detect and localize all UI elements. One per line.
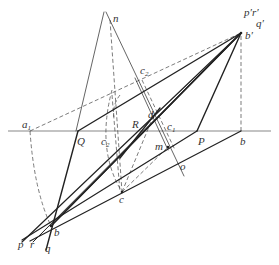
geometry-diagram: np′r′q′b′c2a1Qc2Rdc1Pbmocbprq	[0, 0, 279, 265]
label-o: o	[180, 160, 186, 172]
label-R: R	[131, 118, 139, 130]
label-d: d	[148, 108, 154, 120]
construction-arcs	[30, 90, 122, 226]
label-c2_low: c2	[101, 135, 110, 149]
line-R-d-thick	[120, 108, 160, 158]
label-c1: c1	[167, 120, 175, 134]
label-b_base: b	[240, 135, 246, 147]
label-m: m	[155, 140, 163, 152]
label-b_prime: b′	[245, 29, 254, 41]
label-c2_top: c2	[140, 64, 149, 78]
line-p-through-b	[22, 33, 241, 242]
label-n: n	[113, 12, 119, 24]
dot-b-prime	[240, 32, 243, 35]
label-P: P	[197, 135, 205, 147]
dash-a1-bprime	[30, 33, 241, 131]
diagram-svg: np′r′q′b′c2a1Qc2Rdc1Pbmocbprq	[0, 0, 279, 265]
label-a1: a1	[22, 118, 31, 132]
construction-dashed-lines	[30, 20, 241, 192]
label-p: p	[17, 238, 24, 250]
label-c: c	[119, 193, 124, 205]
point-labels: np′r′q′b′c2a1Qc2Rdc1Pbmocbprq	[17, 6, 265, 254]
label-b_low: b	[54, 226, 60, 238]
line-n-left	[76, 12, 104, 131]
label-Q: Q	[77, 135, 85, 147]
line-b-to-bbase	[30, 131, 241, 241]
line-b-Q-extended	[46, 131, 78, 250]
arc-a1-to-b	[30, 131, 51, 226]
line-P-bprime	[197, 33, 241, 131]
dot-m	[167, 146, 170, 149]
label-q_prime: q′	[256, 17, 265, 29]
label-q: q	[45, 242, 51, 254]
dot-b-low	[50, 225, 53, 228]
label-r: r	[30, 238, 35, 250]
